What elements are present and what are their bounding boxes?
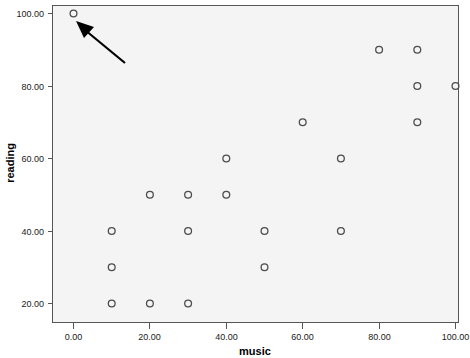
y-tick-label-20: 20.00 bbox=[21, 299, 44, 309]
y-tick-label-80: 80.00 bbox=[21, 82, 44, 92]
y-axis-tick-labels: 100.00 80.00 60.00 40.00 20.00 bbox=[16, 9, 44, 309]
y-tick-label-40: 40.00 bbox=[21, 227, 44, 237]
x-axis-title: music bbox=[239, 345, 271, 357]
scatter-plot-page: 100.00 80.00 60.00 40.00 20.00 0.00 20.0… bbox=[0, 0, 470, 358]
x-axis-tick-labels: 0.00 20.00 40.00 60.00 80.00 100.00 bbox=[65, 332, 470, 342]
x-tick-label-20: 20.00 bbox=[138, 332, 161, 342]
x-tick-label-80: 80.00 bbox=[368, 332, 391, 342]
y-axis-ticks bbox=[48, 14, 53, 304]
y-tick-label-60: 60.00 bbox=[21, 154, 44, 164]
x-tick-label-100: 100.00 bbox=[442, 332, 470, 342]
y-tick-label-100: 100.00 bbox=[16, 9, 44, 19]
x-tick-label-60: 60.00 bbox=[291, 332, 314, 342]
y-axis-title: reading bbox=[4, 143, 16, 183]
x-tick-label-0: 0.00 bbox=[65, 332, 83, 342]
x-axis-ticks bbox=[74, 323, 456, 329]
scatter-chart: 100.00 80.00 60.00 40.00 20.00 0.00 20.0… bbox=[0, 0, 470, 358]
x-tick-label-40: 40.00 bbox=[215, 332, 238, 342]
